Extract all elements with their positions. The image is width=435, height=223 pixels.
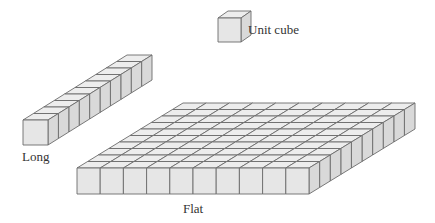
unit-cube-block <box>218 11 251 42</box>
long-label: Long <box>22 149 49 165</box>
base-ten-blocks-diagram <box>0 0 435 223</box>
long-block <box>23 55 152 145</box>
flat-block <box>77 103 415 194</box>
flat-label: Flat <box>183 201 203 217</box>
unit-cube-label: Unit cube <box>248 22 299 38</box>
